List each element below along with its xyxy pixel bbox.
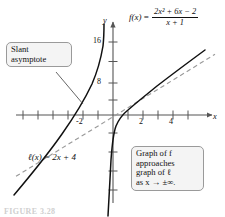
callout-slant-asymptote: Slant asymptote	[6, 42, 72, 67]
equals-sign: =	[144, 12, 149, 22]
callout-graph-approaches: Graph of f approaches graph of ℓ as x → …	[131, 146, 204, 191]
y-tick-label-8: 8	[97, 77, 101, 86]
fraction-numerator: 2x² + 6x − 2	[152, 8, 198, 17]
x-axis-label: x	[213, 112, 217, 121]
x-tick-label-2: 2	[139, 117, 143, 126]
figure-caption: FIGURE 3.28	[4, 207, 56, 216]
x-tick-label-neg2: -2	[76, 117, 83, 126]
x-tick-label-4: 4	[169, 117, 173, 126]
function-name: f(x)	[129, 12, 142, 22]
slant-asymptote-leader	[56, 72, 83, 104]
fraction-denominator: x + 1	[152, 17, 198, 28]
callout-line: asymptote	[11, 55, 67, 65]
fraction: 2x² + 6x − 2 x + 1	[152, 8, 198, 27]
y-axis-label: y	[103, 16, 107, 25]
line-equation-label: ℓ(x) = 2x + 4	[28, 152, 76, 162]
curve-f-right-branch	[108, 50, 205, 216]
callout-line: as x → ±∞.	[136, 178, 199, 188]
y-tick-label-16: 16	[93, 36, 101, 45]
function-equation: f(x) = 2x² + 6x − 2 x + 1	[129, 8, 199, 27]
figure-container: y x -2 2 4 8 16 f(x) = 2x² + 6x − 2 x + …	[0, 0, 225, 217]
